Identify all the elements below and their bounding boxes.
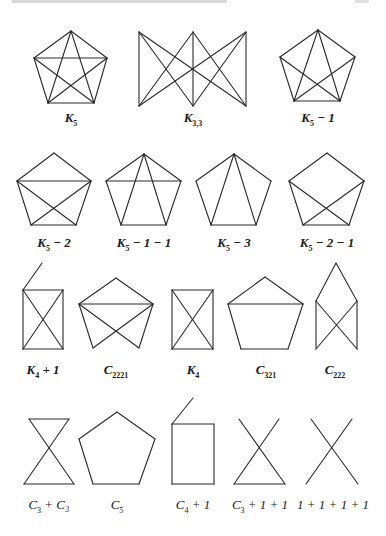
graph-edge <box>48 58 107 103</box>
graph-edge <box>265 277 303 304</box>
graph-c5 <box>79 412 155 484</box>
graph-k5-3 <box>196 154 271 225</box>
graph-k5-1-1 <box>106 154 181 225</box>
graph-label: C321 <box>256 362 277 380</box>
graph-edge <box>71 31 107 58</box>
graph-edge <box>234 419 279 484</box>
graph-edge <box>327 153 364 181</box>
graph-edge <box>94 58 107 103</box>
graph-label: K3,3 <box>184 110 203 128</box>
graph-edge <box>166 181 181 225</box>
graph-edge <box>228 304 241 349</box>
graph-k5-1 <box>280 30 355 101</box>
graph-k4-1 <box>23 263 63 349</box>
label-main: K <box>300 235 309 250</box>
graph-edge <box>289 153 327 181</box>
graph-edge <box>172 398 193 424</box>
graph-edge <box>76 181 91 225</box>
graph-label: 1 + 1 + 1 + 1 <box>297 497 369 515</box>
graph-edge <box>117 412 155 439</box>
label-main: K <box>187 362 196 377</box>
graph-edge <box>144 154 181 181</box>
graph-k5-2-1 <box>289 153 364 225</box>
graph-edge <box>139 439 155 484</box>
graph-edge <box>29 419 74 484</box>
label-subscript: 3,3 <box>192 119 202 128</box>
graph-edge <box>288 304 303 349</box>
graph-edge <box>294 57 355 101</box>
graph-k5-2 <box>17 153 91 225</box>
label-main: C <box>256 362 265 377</box>
label-subscript: 321 <box>264 371 276 380</box>
graph-edge <box>280 57 294 101</box>
graph-edge <box>79 412 117 439</box>
label-main: K <box>184 110 193 125</box>
graph-edge <box>228 277 265 304</box>
graph-edge <box>31 181 91 225</box>
graph-edge <box>34 31 71 58</box>
graph-edge <box>303 181 364 225</box>
label-subscript: 2221 <box>112 371 128 380</box>
graph-label: C3 + 1 + 1 <box>232 497 288 515</box>
graph-c4-1 <box>172 398 214 484</box>
graph-k33 <box>139 32 246 106</box>
label-main: C <box>325 362 334 377</box>
label-main: K <box>65 110 74 125</box>
label-subscript: 4 <box>195 371 199 380</box>
graph-figure <box>0 0 386 536</box>
graph-edge <box>306 419 352 484</box>
graph-label: K5 − 1 − 1 <box>117 235 171 253</box>
graph-c2221 <box>79 278 153 348</box>
label-tail: 1 + 1 + 1 + 1 <box>297 497 369 512</box>
graph-edge <box>318 30 340 101</box>
label-main: C <box>28 497 37 512</box>
graph-1-1-1-1 <box>306 419 358 484</box>
graph-label: K4 <box>187 362 200 380</box>
label-main: C <box>104 362 113 377</box>
graph-k4 <box>172 290 213 349</box>
label-main: C <box>111 497 120 512</box>
graph-label: K4 + 1 <box>26 362 59 380</box>
graph-edge <box>280 57 340 101</box>
label-tail: + 1 <box>188 497 210 512</box>
graph-edge <box>318 30 355 57</box>
graph-edge <box>79 304 93 348</box>
label-subscript: 222 <box>333 371 345 380</box>
graph-edge <box>289 181 303 225</box>
graph-label: K5 − 2 <box>37 235 71 253</box>
graph-label: K5 − 3 <box>217 235 251 253</box>
graph-edge <box>289 181 349 225</box>
graph-label: C5 <box>111 497 124 515</box>
label-tail: + 1 + 1 <box>245 497 289 512</box>
graph-edge <box>196 181 211 225</box>
graph-edge <box>139 304 153 348</box>
graph-edge <box>239 419 285 484</box>
graph-label: K5 − 2 − 1 <box>300 235 354 253</box>
graph-edge <box>336 263 357 301</box>
label-main: K <box>301 110 310 125</box>
graph-label: K5 <box>65 110 78 128</box>
graph-edge <box>79 278 116 304</box>
label-subscript: 5 <box>119 506 123 515</box>
graph-edge <box>256 181 271 225</box>
graph-edge <box>48 31 71 103</box>
label-main: C <box>232 497 241 512</box>
graph-c222 <box>316 263 357 349</box>
graph-label: C3 + C₃ <box>28 497 69 515</box>
label-main: K <box>26 362 35 377</box>
graph-edge <box>17 153 54 181</box>
graph-edge <box>349 181 364 225</box>
graph-c3-1-1 <box>234 419 285 484</box>
graph-edge <box>196 154 234 181</box>
graph-edge <box>17 181 76 225</box>
graph-label: C222 <box>325 362 346 380</box>
graph-edge <box>34 58 94 103</box>
graph-edge <box>144 154 166 225</box>
graph-edge <box>280 30 318 57</box>
graph-edge <box>79 304 139 348</box>
graph-label: C2221 <box>104 362 129 380</box>
graph-edge <box>316 263 336 301</box>
graph-edge <box>54 153 91 181</box>
label-main: K <box>117 235 126 250</box>
label-tail: − 2 <box>50 235 71 250</box>
